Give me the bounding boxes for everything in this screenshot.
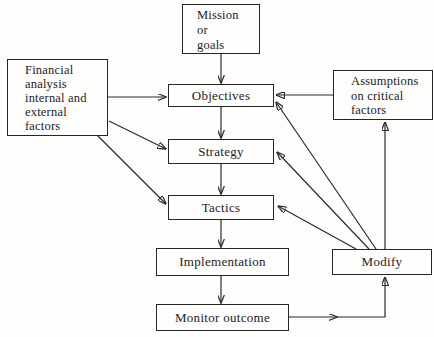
flowchart-diagram: Mission or goals Financial analysis inte… <box>0 0 434 337</box>
arrow-modify-to-tactics <box>278 206 356 249</box>
arrow-financial-to-tactics <box>97 135 166 204</box>
node-assumptions-on-critical-factors: Assumptions on critical factors <box>333 70 433 120</box>
arrow-modify-to-objectives <box>276 102 376 249</box>
node-strategy: Strategy <box>168 139 274 164</box>
arrow-monitor-to-modify <box>337 277 385 317</box>
node-monitor-outcome: Monitor outcome <box>156 304 289 331</box>
node-financial-analysis: Financial analysis internal and external… <box>7 59 108 136</box>
arrow-financial-to-strategy <box>109 121 166 149</box>
node-implementation: Implementation <box>156 248 289 276</box>
node-modify: Modify <box>332 249 432 275</box>
arrow-modify-to-strategy <box>277 152 369 249</box>
node-tactics: Tactics <box>168 195 274 220</box>
node-mission-or-goals: Mission or goals <box>182 4 260 54</box>
node-objectives: Objectives <box>168 84 274 107</box>
